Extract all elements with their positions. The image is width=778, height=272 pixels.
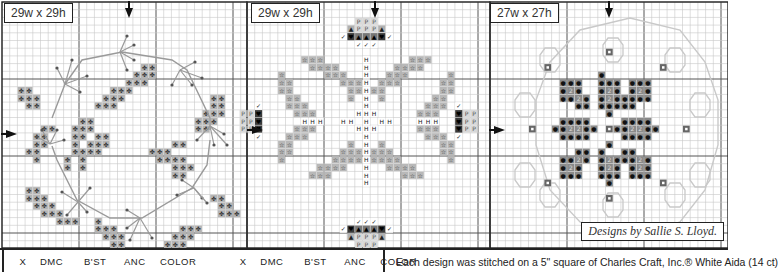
svg-text:☆: ☆	[294, 102, 299, 109]
svg-text:2: 2	[638, 87, 642, 94]
svg-text:✓: ✓	[256, 133, 261, 140]
svg-text:●: ●	[630, 133, 635, 140]
svg-text:☆: ☆	[410, 164, 415, 171]
svg-text:●: ●	[622, 156, 627, 163]
svg-text:☆: ☆	[302, 56, 307, 63]
svg-text:✓: ✓	[372, 218, 377, 225]
svg-text:●: ●	[561, 172, 566, 179]
svg-text:✤: ✤	[196, 125, 201, 132]
svg-text:✤: ✤	[111, 87, 116, 94]
svg-text:H: H	[364, 64, 369, 71]
svg-text:☆: ☆	[341, 156, 346, 163]
svg-text:✤: ✤	[127, 87, 132, 94]
svg-text:✤: ✤	[127, 79, 132, 86]
svg-text:☆: ☆	[279, 79, 284, 86]
svg-text:✤: ✤	[150, 148, 155, 155]
svg-text:✤: ✤	[188, 164, 193, 171]
svg-text:P: P	[357, 241, 361, 248]
svg-text:H: H	[387, 118, 392, 125]
svg-text:H: H	[364, 172, 369, 179]
svg-text:☆: ☆	[387, 148, 392, 155]
svg-text:☆: ☆	[371, 87, 376, 94]
svg-text:●: ●	[576, 148, 581, 155]
svg-text:☆: ☆	[310, 110, 315, 117]
svg-text:✤: ✤	[142, 64, 147, 71]
svg-text:☆: ☆	[341, 79, 346, 86]
svg-text:H: H	[356, 125, 361, 132]
cross-stitch-chart: ✤✤✤✤✤✤✤✤✤✤✤✤✤✤✤✤✤✤✤✤✤✤✤✤✤✤✤✤✤✤✤✤✤✤✤✤✤✤✤✤…	[0, 0, 728, 250]
svg-text:●: ●	[561, 156, 566, 163]
svg-text:☆: ☆	[418, 172, 423, 179]
svg-text:●: ●	[614, 172, 619, 179]
svg-text:●: ●	[584, 118, 589, 125]
svg-text:✓: ✓	[456, 133, 461, 140]
svg-text:✤: ✤	[103, 133, 108, 140]
svg-text:☆: ☆	[410, 56, 415, 63]
svg-text:P: P	[372, 25, 376, 32]
svg-text:✤: ✤	[88, 148, 93, 155]
svg-text:✤: ✤	[180, 172, 185, 179]
svg-text:✓: ✓	[356, 41, 361, 48]
svg-text:☆: ☆	[325, 71, 330, 78]
svg-text:✤: ✤	[34, 95, 39, 102]
svg-text:●: ●	[645, 87, 650, 94]
svg-text:♥: ♥	[348, 225, 353, 232]
svg-text:✤: ✤	[119, 241, 124, 248]
svg-text:✤: ✤	[119, 95, 124, 102]
svg-text:☆: ☆	[310, 125, 315, 132]
svg-text:☆: ☆	[394, 64, 399, 71]
svg-text:✤: ✤	[50, 125, 55, 132]
svg-text:✤: ✤	[180, 233, 185, 240]
svg-text:✤: ✤	[80, 148, 85, 155]
svg-text:☆: ☆	[302, 110, 307, 117]
svg-text:●: ●	[561, 164, 566, 171]
legend-left-border	[2, 250, 4, 272]
svg-text:☆: ☆	[433, 133, 438, 140]
svg-text:☆: ☆	[441, 141, 446, 148]
svg-text:✤: ✤	[111, 241, 116, 248]
svg-text:●: ●	[630, 118, 635, 125]
svg-text:●: ●	[561, 87, 566, 94]
svg-text:☆: ☆	[410, 64, 415, 71]
svg-text:✤: ✤	[227, 210, 232, 217]
svg-text:☆: ☆	[279, 156, 284, 163]
svg-text:✤: ✤	[57, 210, 62, 217]
svg-text:P: P	[357, 233, 361, 240]
panel-2-size-label: 29w x 29h	[251, 3, 320, 23]
svg-text:☆: ☆	[402, 64, 407, 71]
svg-text:☆: ☆	[448, 148, 453, 155]
svg-text:☆: ☆	[294, 125, 299, 132]
svg-text:☆: ☆	[425, 102, 430, 109]
svg-text:✤: ✤	[26, 87, 31, 94]
svg-text:☆: ☆	[287, 87, 292, 94]
svg-text:✤: ✤	[26, 95, 31, 102]
svg-text:☆: ☆	[287, 141, 292, 148]
svg-text:✤: ✤	[34, 195, 39, 202]
svg-text:✤: ✤	[103, 141, 108, 148]
svg-text:☆: ☆	[348, 95, 353, 102]
svg-text:☆: ☆	[287, 148, 292, 155]
svg-text:●: ●	[568, 133, 573, 140]
svg-text:✤: ✤	[73, 218, 78, 225]
svg-text:☆: ☆	[394, 71, 399, 78]
panel-1-size-label: 29w x 29h	[4, 3, 73, 23]
svg-text:☆: ☆	[441, 148, 446, 155]
svg-text:☆: ☆	[302, 125, 307, 132]
svg-text:●: ●	[622, 133, 627, 140]
svg-text:☆: ☆	[379, 79, 384, 86]
svg-text:P: P	[365, 241, 369, 248]
svg-text:✤: ✤	[65, 156, 70, 163]
svg-text:☆: ☆	[448, 141, 453, 148]
svg-text:●: ●	[630, 148, 635, 155]
svg-text:●: ●	[561, 79, 566, 86]
svg-text:✤: ✤	[173, 172, 178, 179]
svg-text:●: ●	[607, 172, 612, 179]
svg-text:✤: ✤	[211, 118, 216, 125]
svg-text:✤: ✤	[103, 102, 108, 109]
svg-text:2: 2	[638, 156, 642, 163]
svg-text:P: P	[249, 110, 253, 117]
svg-text:●: ●	[614, 156, 619, 163]
svg-text:●: ●	[576, 118, 581, 125]
svg-text:P: P	[249, 118, 253, 125]
svg-text:☆: ☆	[348, 156, 353, 163]
